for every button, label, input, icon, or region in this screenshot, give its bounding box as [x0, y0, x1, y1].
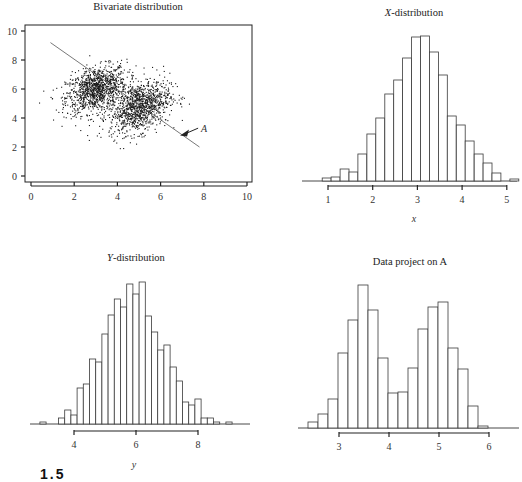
histogram-bar [96, 362, 102, 424]
histogram-bar [59, 418, 65, 424]
x-tick-label: 1 [326, 194, 331, 205]
scatter-points [39, 55, 190, 149]
histogram-bar [158, 350, 164, 424]
histogram-bar [207, 418, 213, 424]
y-distribution-xlabel: y [131, 459, 137, 470]
x-tick-label: 6 [487, 441, 492, 452]
scatter-x-axis: 0246810 [29, 182, 253, 202]
histogram-bar [83, 384, 89, 424]
x-tick-label: 6 [158, 191, 163, 202]
histogram-bar [340, 169, 349, 181]
histogram-bar [385, 94, 394, 181]
x-tick-label: 5 [437, 441, 442, 452]
histogram-bar [478, 426, 488, 428]
histogram-bar [318, 414, 328, 428]
histogram-bar [408, 368, 418, 428]
x-tick-label: 2 [370, 194, 375, 205]
histogram-bar [394, 80, 403, 181]
x-tick-label: 3 [415, 194, 420, 205]
x-distribution-histogram: 12345 [302, 36, 519, 205]
scatter-title: Bivariate distribution [93, 1, 183, 12]
scatter-y-axis: 0246810 [7, 26, 25, 182]
x-tick-label: 4 [115, 191, 120, 202]
histogram-bar [201, 418, 207, 424]
y-tick-label: 6 [12, 84, 17, 95]
histogram-bar [145, 316, 151, 424]
figure-canvas: Bivariate distribution A 0246810 0246810… [0, 0, 522, 482]
x-tick-label: 10 [242, 191, 252, 202]
histogram-bar [127, 284, 133, 424]
x-tick-label: 4 [460, 194, 465, 205]
x-tick-label: 4 [387, 441, 392, 452]
histogram-bar [412, 37, 421, 181]
histogram-bar [328, 399, 338, 428]
arrow-annotation-A: A [180, 123, 208, 136]
histogram-bar [367, 134, 376, 181]
histogram-bar [430, 52, 439, 181]
x-tick-label: 8 [196, 439, 201, 450]
histogram-bar [358, 154, 367, 181]
title-rest: -distribution [391, 7, 444, 18]
histogram-bar [456, 125, 465, 181]
histogram-bar [308, 422, 318, 428]
figure-caption-fragment: 1.5 [40, 466, 65, 482]
title-rest: -distribution [113, 252, 166, 263]
histogram-bar [483, 163, 492, 181]
x-tick-label: 2 [72, 191, 77, 202]
histogram-bar [378, 358, 388, 428]
histogram-bar [214, 422, 220, 424]
x-tick-label: 6 [134, 439, 139, 450]
y-distribution-panel: Y-distribution 468 y [30, 252, 250, 470]
histogram-bar [176, 381, 182, 424]
histogram-bar [331, 177, 340, 181]
histogram-bar [474, 154, 483, 181]
histogram-bar [322, 178, 331, 181]
projection-panel: Data project on A 3456 [298, 256, 519, 452]
y-tick-label: 8 [12, 55, 17, 66]
x-tick-label: 3 [337, 441, 342, 452]
y-tick-label: 4 [12, 113, 17, 124]
x-distribution-xlabel: x [411, 213, 417, 224]
histogram-bar [398, 392, 408, 428]
histogram-bar [108, 315, 114, 424]
histogram-bar [349, 172, 358, 181]
histogram-bar [71, 415, 77, 424]
histogram-bar [152, 332, 158, 424]
x-tick-label: 0 [29, 191, 34, 202]
histogram-bar [465, 141, 474, 181]
histogram-bar [458, 369, 468, 428]
x-tick-label: 5 [504, 194, 509, 205]
histogram-bar [428, 307, 438, 428]
y-tick-label: 0 [12, 171, 17, 182]
histogram-bar [77, 388, 83, 424]
histogram-bar [183, 402, 189, 424]
histogram-bar [348, 320, 358, 428]
scatter-panel: Bivariate distribution A 0246810 0246810 [7, 1, 252, 202]
y-tick-label: 2 [12, 142, 17, 153]
x-distribution-panel: X-distribution 12345 x [302, 7, 519, 224]
histogram-bar [448, 348, 458, 428]
x-tick-label: 8 [201, 191, 206, 202]
histogram-bar [170, 367, 176, 424]
y-tick-label: 10 [7, 26, 17, 37]
arrow-head-icon [180, 129, 189, 136]
histogram-bar [164, 345, 170, 424]
histogram-bar [468, 406, 478, 428]
histogram-bar [447, 116, 456, 181]
histogram-bar [65, 410, 71, 424]
histogram-bar [133, 294, 139, 424]
x-tick-label: 4 [72, 439, 77, 450]
histogram-bar [403, 58, 412, 181]
histogram-bar [388, 393, 398, 428]
histogram-bar [418, 329, 428, 428]
histogram-bar [189, 405, 195, 424]
projection-histogram: 3456 [298, 285, 519, 452]
x-distribution-title: X-distribution [384, 7, 444, 18]
histogram-bar [90, 359, 96, 424]
histogram-bar [492, 173, 501, 181]
histogram-bar [376, 118, 385, 181]
projection-line-label: A [200, 123, 208, 134]
histogram-bar [139, 282, 145, 424]
histogram-bar [338, 353, 348, 428]
projection-title: Data project on A [373, 256, 448, 267]
